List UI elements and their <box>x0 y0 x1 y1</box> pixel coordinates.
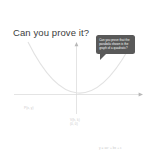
page-title: Can you prove it? <box>13 27 89 38</box>
y-axis <box>75 42 79 114</box>
point-label: P(x, y) <box>24 107 34 111</box>
equation-label: y = ax² + bx + c <box>99 147 122 151</box>
slide-canvas: Can you prove it? P(x, y) V(h, k) (0, 0)… <box>0 0 154 156</box>
speech-bubble: Can you prove that the parabola shown is… <box>96 35 135 54</box>
vertex-label: V(h, k) (0, 0) <box>70 119 80 127</box>
vertex-label-line2: (0, 0) <box>70 123 80 127</box>
speech-bubble-tail <box>100 54 106 60</box>
